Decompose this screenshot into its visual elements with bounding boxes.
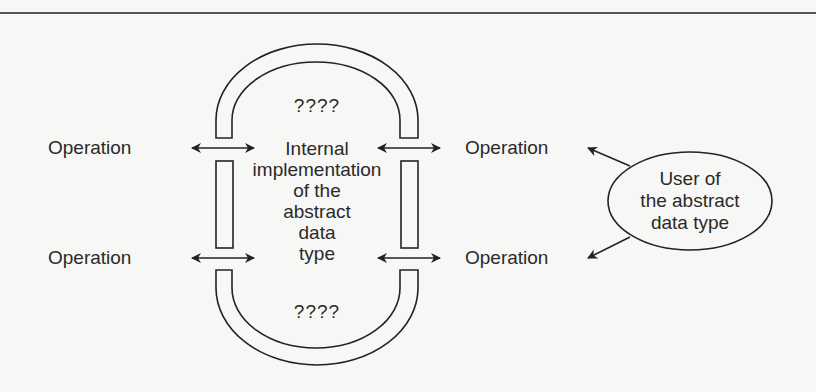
user-to-top-operation-arrow [588, 148, 630, 166]
user-label-line: User of [610, 168, 770, 190]
top-arch-wall [216, 44, 418, 138]
user-label-line: data type [610, 212, 770, 234]
top-unknown-label: ???? [277, 95, 357, 117]
bottom-unknown-label: ???? [277, 301, 357, 323]
internal-implementation-line: type [238, 243, 396, 264]
operation-label-left-top: Operation [48, 137, 131, 159]
internal-implementation-label: Internal implementation of the abstract … [238, 138, 396, 264]
operation-label-left-bottom: Operation [48, 247, 131, 269]
user-label: User of the abstract data type [610, 168, 770, 234]
internal-implementation-line: of the [238, 180, 396, 201]
internal-implementation-line: Internal [238, 138, 396, 159]
left-wall-bar [216, 161, 233, 248]
user-to-bottom-operation-arrow [588, 237, 630, 258]
internal-implementation-line: abstract [238, 201, 396, 222]
operation-label-right-top: Operation [465, 137, 548, 159]
right-wall-bar [401, 161, 418, 248]
internal-implementation-line: implementation [238, 159, 396, 180]
internal-implementation-line: data [238, 222, 396, 243]
user-label-line: the abstract [610, 190, 770, 212]
operation-label-right-bottom: Operation [465, 247, 548, 269]
